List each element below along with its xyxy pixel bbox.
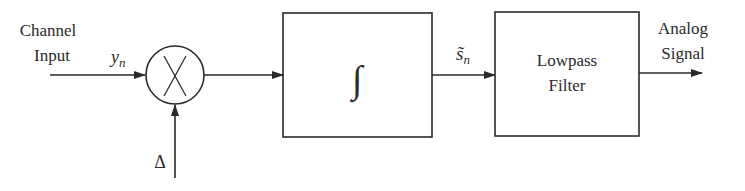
output-label-line1: Analog [658,19,709,38]
multiplier-node [146,46,204,104]
delta-demodulator-diagram: Channel Input yn Δ ∫ s̃n Lowpass Filter … [0,0,745,191]
input-label-line1: Channel [20,21,77,40]
intermediate-signal-label: s̃n [456,43,470,67]
input-signal-label: yn [109,47,126,70]
integral-icon: ∫ [350,58,365,103]
output-label-line2: Signal [661,44,705,63]
input-label-line2: Input [34,46,70,65]
filter-label-line2: Filter [549,76,586,95]
filter-label-line1: Lowpass [537,51,597,70]
lowpass-filter-block [495,12,639,136]
step-size-label: Δ [154,152,166,172]
